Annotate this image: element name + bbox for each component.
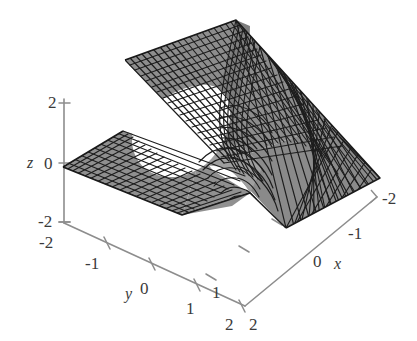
x-tick-1	[206, 274, 216, 280]
z-tick-label-2: 2	[48, 94, 57, 111]
x-axis-label: x	[334, 256, 341, 272]
plot-canvas	[0, 0, 417, 341]
z-axis-label: z	[27, 155, 33, 171]
z-tick-label-minus-2: -2	[38, 213, 52, 230]
surface-mesh	[63, 20, 380, 240]
y-tick-label-minus-2: -2	[39, 234, 53, 251]
y-tick-label-2: 2	[225, 316, 234, 333]
x-tick-label-1: 1	[212, 284, 221, 301]
z-tick-label-0: 0	[44, 155, 53, 172]
x-tick-0	[239, 246, 249, 252]
surface-plot-figure: 2 z 0 -2 -2 -1 y 0 1 2 2 1 0 x -1 -2	[0, 0, 417, 341]
x-tick-label-2: 2	[249, 316, 258, 333]
x-tick-label-minus-2: -2	[382, 190, 396, 207]
x-tick-label-minus-1: -1	[348, 225, 362, 242]
y-tick-label-0: 0	[140, 280, 149, 297]
y-tick-label-1: 1	[186, 300, 195, 317]
y-tick-label-minus-1: -1	[85, 255, 99, 272]
y-axis-label: y	[125, 286, 132, 302]
x-tick-label-0: 0	[313, 253, 322, 270]
